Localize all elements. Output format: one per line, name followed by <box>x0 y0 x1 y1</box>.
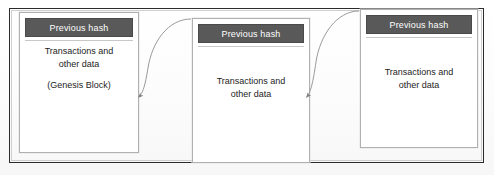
block-genesis-header: Previous hash <box>25 18 133 37</box>
block-genesis-note: (Genesis Block) <box>20 80 138 90</box>
block-third[interactable]: Previous hash Transactions and other dat… <box>360 9 478 148</box>
block-genesis-body-line-2: other data <box>26 58 132 71</box>
block-second[interactable]: Previous hash Transactions and other dat… <box>192 18 310 163</box>
block-third-divider <box>366 37 472 38</box>
block-second-body-line-1: Transactions and <box>217 75 286 88</box>
block-second-header: Previous hash <box>198 24 304 43</box>
block-third-body-line-2: other data <box>399 79 440 92</box>
diagram-canvas: Previous hash Transactions and other dat… <box>0 0 494 175</box>
block-genesis-body-line-1: Transactions and <box>26 45 132 58</box>
block-third-body: Transactions and other data <box>367 40 471 143</box>
block-second-divider <box>198 46 304 47</box>
block-genesis-divider <box>25 40 133 41</box>
block-second-body: Transactions and other data <box>199 49 303 158</box>
block-second-body-line-2: other data <box>231 88 272 101</box>
block-third-body-line-1: Transactions and <box>385 66 454 79</box>
block-third-header: Previous hash <box>366 15 472 34</box>
block-genesis[interactable]: Previous hash Transactions and other dat… <box>19 12 139 153</box>
block-genesis-body: Transactions and other data <box>26 45 132 148</box>
